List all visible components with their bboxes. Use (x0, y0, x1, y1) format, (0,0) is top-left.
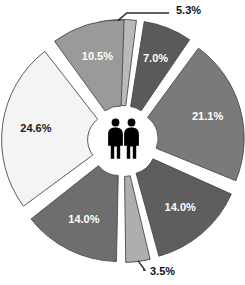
callout-leader-line (138, 261, 145, 270)
pie-slice-value-label: 14.0% (165, 201, 196, 213)
pie-slice-value-label: 24.6% (20, 122, 51, 134)
pie-chart: 7.0%21.1%14.0%14.0%24.6%10.5% 5.3%3.5% (0, 0, 245, 285)
two-person-pictogram-icon (108, 119, 139, 159)
pie-slice-value-label: 10.5% (82, 50, 113, 62)
pie-slice-callout-label: 3.5% (150, 265, 175, 277)
pie-chart-canvas: 7.0%21.1%14.0%14.0%24.6%10.5% 5.3%3.5% (0, 0, 245, 285)
pie-slice-value-label: 21.1% (192, 110, 223, 122)
pie-slice-callout-label: 5.3% (176, 4, 201, 16)
pie-slice-value-label: 7.0% (143, 52, 168, 64)
pie-slice-value-label: 14.0% (68, 213, 99, 225)
